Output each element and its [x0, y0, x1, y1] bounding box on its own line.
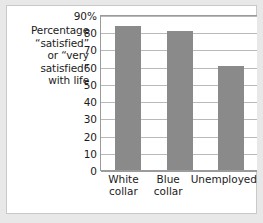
bar[interactable] — [115, 26, 141, 170]
x-tick-label-line: Unemployed — [191, 173, 257, 185]
caption-line-5: with life — [9, 74, 89, 87]
bar[interactable] — [167, 31, 193, 170]
bar-slot — [154, 17, 206, 170]
y-tick-label: 30 — [84, 113, 97, 125]
x-axis-baseline — [101, 170, 257, 171]
bar-series — [102, 17, 257, 170]
x-tick-label-line: collar — [101, 185, 146, 197]
y-tick-label: 10 — [84, 148, 97, 160]
figure-frame: Percentage “satisfied” or “very satisfie… — [0, 0, 263, 223]
bar-slot — [102, 17, 154, 170]
caption-line-3: or “very — [9, 49, 89, 62]
y-tick-label: 70 — [84, 44, 97, 56]
x-tick-label: Unemployed — [191, 173, 257, 198]
caption-line-1: Percentage — [9, 24, 89, 37]
x-axis-labels: WhitecollarBluecollarUnemployed — [101, 173, 257, 198]
x-tick-label-line: collar — [146, 185, 191, 197]
gridline — [101, 171, 257, 172]
x-tick-label: Whitecollar — [101, 173, 146, 198]
bar-slot — [205, 17, 257, 170]
y-axis-caption: Percentage “satisfied” or “very satisfie… — [9, 24, 89, 87]
bar-chart: Percentage “satisfied” or “very satisfie… — [7, 6, 256, 213]
y-tick-label: 90% — [74, 10, 97, 22]
y-tick-label: 40 — [84, 96, 97, 108]
x-tick-label-line: Blue — [146, 173, 191, 185]
y-tick-label: 0 — [90, 165, 97, 177]
y-tick-label: 50 — [84, 79, 97, 91]
x-tick-label-line: White — [101, 173, 146, 185]
y-tick-label: 60 — [84, 62, 97, 74]
bar[interactable] — [218, 66, 244, 170]
caption-line-2: “satisfied” — [9, 37, 89, 50]
plot-wrapper: 0102030405060708090% WhitecollarBluecoll… — [100, 15, 257, 189]
figure-inner-border: Percentage “satisfied” or “very satisfie… — [6, 5, 257, 214]
y-tick-label: 20 — [84, 131, 97, 143]
caption-line-4: satisfied” — [9, 62, 89, 75]
y-tick-label: 80 — [84, 27, 97, 39]
plot-area: 0102030405060708090% — [100, 15, 257, 171]
x-tick-label: Bluecollar — [146, 173, 191, 198]
